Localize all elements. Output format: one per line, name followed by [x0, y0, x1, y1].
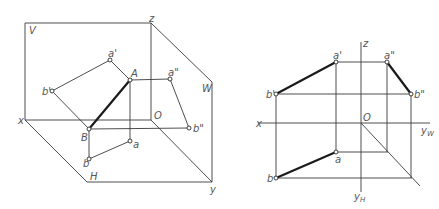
label-A: A [130, 68, 138, 79]
projection-figure: V W H z x y O a' b' A B a" b" a b [0, 0, 439, 209]
label-b: b [83, 158, 89, 169]
left-pictorial-diagram: V W H z x y O a' b' A B a" b" a b [17, 13, 217, 195]
segment-AB [89, 80, 130, 129]
projector-a-prime-A [110, 60, 130, 80]
label-plane-h: H [90, 171, 98, 182]
side-view-segment [387, 62, 411, 94]
projector-A-a-second [130, 79, 170, 80]
label-b-prime: b' [42, 86, 51, 97]
label-a-prime: a' [108, 48, 117, 59]
label-a-prime: a' [333, 50, 342, 61]
label-plane-v: V [29, 25, 37, 36]
label-origin: O [154, 110, 162, 121]
label-B: B [81, 132, 88, 143]
h-plane-outline [25, 120, 212, 182]
point-b-second [409, 92, 413, 96]
top-view-segment [276, 152, 336, 178]
label-b-second: b" [414, 89, 425, 100]
label-axis-yh-sub: H [360, 196, 366, 204]
label-axis-x: x [17, 115, 24, 126]
point-b-second [187, 126, 191, 130]
label-axis-yw: yW [420, 125, 435, 138]
label-axis-yh: yH [353, 191, 366, 204]
label-origin: O [363, 112, 371, 123]
label-axis-x: x [255, 118, 262, 129]
projector-b-prime-B [52, 91, 89, 129]
front-view-segment [276, 62, 336, 94]
line-a-second-b-second [170, 79, 189, 128]
label-b: b [267, 173, 273, 184]
label-axis-yw-sub: W [427, 130, 435, 138]
label-axis-y: y [209, 184, 217, 195]
point-b [274, 176, 278, 180]
label-a: a [335, 154, 341, 165]
label-a-second: a" [384, 50, 395, 61]
label-b-second: b" [193, 123, 204, 134]
label-a: a [133, 139, 139, 150]
label-plane-w: W [202, 83, 213, 94]
label-b-prime: b' [266, 89, 275, 100]
label-axis-z: z [148, 13, 155, 24]
projector-B-b-second [89, 128, 189, 129]
line-a-prime-b-prime [52, 60, 110, 91]
w-plane-outline [151, 23, 212, 182]
label-a-second: a" [168, 67, 179, 78]
point-B [87, 127, 91, 131]
label-axis-z: z [362, 38, 369, 49]
line-a-b [89, 141, 130, 159]
point-a [128, 139, 132, 143]
right-orthographic-diagram: z x O yW yH a' b' a" b" a b [255, 38, 435, 204]
